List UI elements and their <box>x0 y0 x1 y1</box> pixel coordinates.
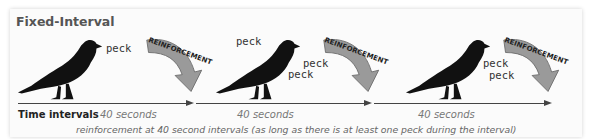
peck-label: peck <box>288 68 313 80</box>
caption: reinforcement at 40 second intervals (as… <box>76 124 516 135</box>
peck-label: peck <box>106 42 131 54</box>
timeline-axis <box>374 103 548 104</box>
peck-label: peck <box>236 35 261 47</box>
interval-label: 40 seconds <box>237 109 294 120</box>
arrow-right-icon <box>364 100 372 106</box>
arrow-right-icon <box>544 100 552 106</box>
pigeon-icon <box>402 36 498 103</box>
interval-label: 40 seconds <box>100 109 157 120</box>
diagram-title: Fixed-Interval <box>16 14 115 29</box>
timeline-axis <box>196 103 368 104</box>
timeline-axis <box>18 103 190 104</box>
interval-label: 40 seconds <box>418 109 475 120</box>
pigeon-icon <box>14 36 110 103</box>
axis-label: Time intervals <box>18 109 99 120</box>
arrow-right-icon <box>186 100 194 106</box>
